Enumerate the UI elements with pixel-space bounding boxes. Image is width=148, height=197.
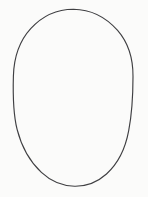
- image-canvas: A single thin dark outline of a tall ver…: [0, 0, 148, 197]
- ellipse-drawing: A single thin dark outline of a tall ver…: [0, 0, 148, 197]
- ellipse-outline-path: [13, 9, 133, 186]
